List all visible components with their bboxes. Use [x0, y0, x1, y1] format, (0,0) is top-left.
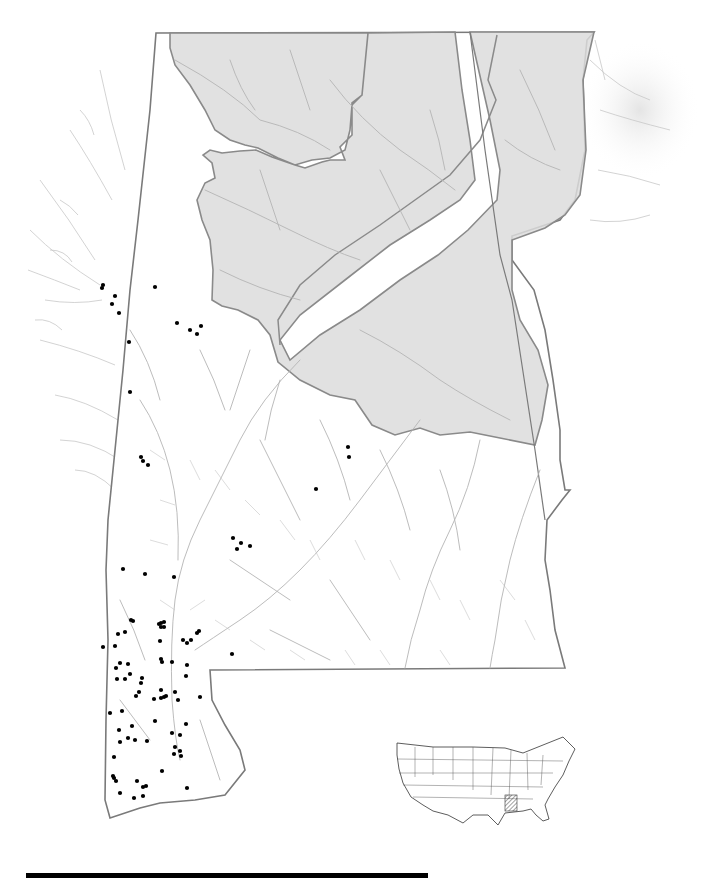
occurrence-dot — [178, 749, 182, 753]
occurrence-dot — [120, 709, 124, 713]
occurrence-dot — [153, 285, 157, 289]
occurrence-dot — [121, 567, 125, 571]
occurrence-dot — [239, 541, 243, 545]
occurrence-dot — [152, 697, 156, 701]
occurrence-dot — [185, 786, 189, 790]
occurrence-dot — [346, 445, 350, 449]
occurrence-dot — [173, 690, 177, 694]
occurrence-dot — [170, 731, 174, 735]
occurrence-dot — [143, 572, 147, 576]
occurrence-dot — [110, 302, 114, 306]
occurrence-dot — [185, 641, 189, 645]
occurrence-dot — [128, 672, 132, 676]
occurrence-dot — [170, 660, 174, 664]
occurrence-dot — [118, 661, 122, 665]
occurrence-dot — [248, 544, 252, 548]
occurrence-dot — [158, 639, 162, 643]
occurrence-dot — [198, 695, 202, 699]
scale-bar — [26, 873, 428, 878]
occurrence-dot — [118, 740, 122, 744]
occurrence-dot — [144, 784, 148, 788]
occurrence-dot — [114, 666, 118, 670]
occurrence-dot — [116, 632, 120, 636]
occurrence-dot — [179, 754, 183, 758]
occurrence-dot — [118, 791, 122, 795]
occurrence-dot — [146, 463, 150, 467]
occurrence-dot — [347, 455, 351, 459]
occurrence-dot — [188, 328, 192, 332]
occurrence-dot — [159, 696, 163, 700]
occurrence-dot — [195, 631, 199, 635]
occurrence-dot — [127, 340, 131, 344]
occurrence-dot — [176, 698, 180, 702]
occurrence-dot — [230, 652, 234, 656]
occurrence-dot — [160, 660, 164, 664]
occurrence-dot — [123, 677, 127, 681]
occurrence-dot — [164, 694, 168, 698]
occurrence-dot — [160, 769, 164, 773]
occurrence-dot — [145, 739, 149, 743]
occurrence-dot — [141, 459, 145, 463]
occurrence-dot — [128, 390, 132, 394]
occurrence-dot — [113, 294, 117, 298]
occurrence-dot — [195, 332, 199, 336]
occurrence-dot — [185, 663, 189, 667]
occurrence-dot — [314, 487, 318, 491]
occurrence-dot — [111, 774, 115, 778]
occurrence-dot — [130, 724, 134, 728]
occurrence-dot — [173, 745, 177, 749]
occurrence-dot — [162, 625, 166, 629]
occurrence-dot — [132, 796, 136, 800]
occurrence-dot — [140, 676, 144, 680]
occurrence-dot — [135, 779, 139, 783]
occurrence-dot — [175, 321, 179, 325]
occurrence-dot — [126, 736, 130, 740]
occurrence-dot — [113, 644, 117, 648]
us-outline — [397, 737, 575, 825]
occurrence-dot — [181, 638, 185, 642]
occurrence-dot — [115, 677, 119, 681]
occurrence-dot — [108, 711, 112, 715]
occurrence-dot — [137, 690, 141, 694]
occurrence-dot — [184, 722, 188, 726]
occurrence-dot — [114, 779, 118, 783]
occurrence-dot — [126, 662, 130, 666]
occurrence-dot — [172, 752, 176, 756]
occurrence-dot — [134, 694, 138, 698]
occurrence-dot — [139, 681, 143, 685]
occurrence-dot — [139, 455, 143, 459]
occurrence-dot — [101, 645, 105, 649]
us-inset-map — [397, 737, 575, 825]
occurrence-dot — [235, 547, 239, 551]
occurrence-dot — [117, 728, 121, 732]
occurrence-dot — [117, 311, 121, 315]
occurrence-dot — [153, 719, 157, 723]
occurrence-dot — [231, 536, 235, 540]
occurrence-dot — [123, 630, 127, 634]
occurrence-dot — [112, 755, 116, 759]
occurrence-dot — [141, 794, 145, 798]
occurrence-dot — [199, 324, 203, 328]
occurrence-dot — [162, 620, 166, 624]
occurrence-dot — [172, 575, 176, 579]
occurrence-dot — [184, 674, 188, 678]
occurrence-dot — [131, 619, 135, 623]
occurrence-dot — [178, 733, 182, 737]
highlight-region — [505, 795, 517, 811]
occurrence-dot — [189, 638, 193, 642]
occurrence-dot — [100, 286, 104, 290]
occurrence-dot — [159, 688, 163, 692]
occurrence-dot — [133, 738, 137, 742]
